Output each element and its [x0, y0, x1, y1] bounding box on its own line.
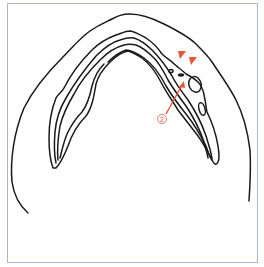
callout-number-2: 2 — [158, 115, 167, 124]
arrowhead-2-icon — [189, 57, 197, 65]
callout-label: 2 — [160, 116, 164, 124]
arrowhead-1-icon — [178, 51, 186, 59]
mandible-middle-cortex — [54, 38, 212, 163]
mandible-inner-cortex — [58, 44, 208, 160]
mandible-diagram: 2 — [0, 0, 264, 267]
arrowhead-pair — [178, 51, 197, 65]
canal-small-round — [169, 69, 173, 72]
canal-small-dash — [179, 74, 184, 76]
